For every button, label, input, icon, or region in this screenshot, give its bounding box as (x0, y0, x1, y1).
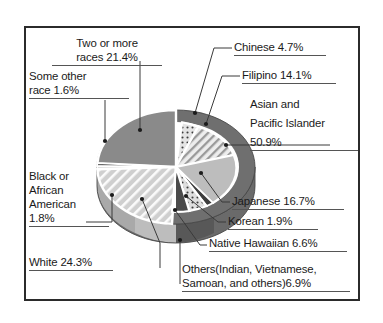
label-others-line2: Samoan, and others)6.9% (182, 277, 350, 292)
label-filipino: Filipino 14.1% (242, 69, 336, 84)
label-black-african-american-line1: Black or (29, 170, 101, 184)
label-some-other-race-line2: race 1.6% (29, 84, 129, 99)
label-korean: Korean 1.9% (228, 215, 318, 230)
label-two-or-more-races-line1: Two or more (52, 37, 162, 51)
label-two-or-more-races-line2: races 21.4% (52, 51, 162, 66)
label-some-other-race-line1: Some other (29, 70, 129, 84)
label-black-african-american-line3: American (29, 198, 109, 212)
pie-slice-two-or-more-races (97, 110, 176, 167)
pie-chart-figure: Two or more races 21.4% Some other race … (0, 0, 383, 323)
label-asian-pacific-islander-line2: Pacific Islander (250, 117, 362, 131)
label-asian-pacific-islander-line3: 50.9% (250, 136, 358, 151)
label-chinese: Chinese 4.7% (234, 41, 326, 56)
label-japanese: Japanese 16.7% (232, 195, 344, 210)
label-native-hawaiian: Native Hawaiian 6.6% (209, 237, 347, 252)
label-black-african-american-line2: African (29, 184, 101, 198)
label-others-line1: Others(Indian, Vietnamese, (182, 263, 354, 277)
label-asian-pacific-islander-line1: Asian and (250, 98, 358, 112)
label-black-african-american-line4: 1.8% (29, 212, 109, 227)
label-white: White 24.3% (29, 256, 113, 271)
